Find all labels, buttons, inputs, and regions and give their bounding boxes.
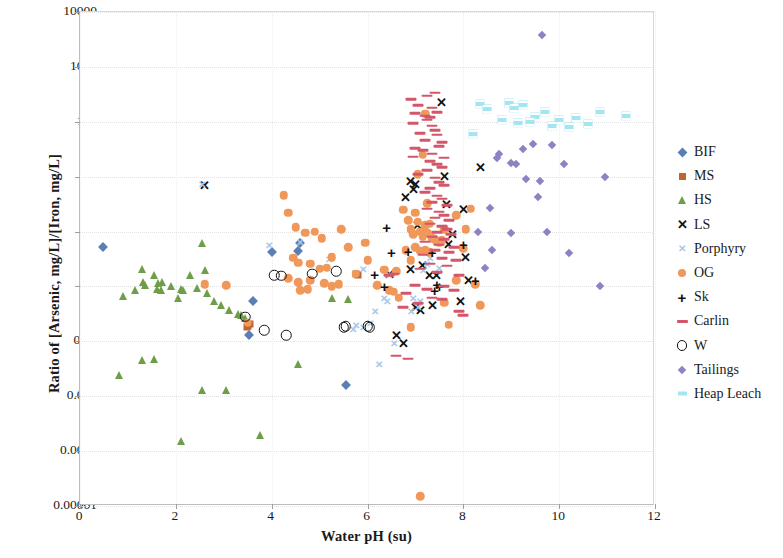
data-point-carlin xyxy=(424,262,435,265)
data-point-hs xyxy=(138,356,146,364)
legend-label: HS xyxy=(692,192,712,208)
data-point-heap-leach xyxy=(531,113,540,122)
data-point-ls: ✕ xyxy=(405,262,416,275)
data-point-carlin xyxy=(420,241,431,244)
data-point-heap-leach xyxy=(564,123,573,132)
data-point-ls: ✕ xyxy=(431,269,442,282)
data-point-hs xyxy=(210,297,218,305)
legend-item-porphyry[interactable]: ✕Porphyry xyxy=(672,237,783,261)
y-tick-mark xyxy=(75,122,80,123)
data-point-w xyxy=(338,322,349,333)
legend-item-carlin[interactable]: Carlin xyxy=(672,309,783,333)
data-point-og xyxy=(315,265,324,274)
data-point-tailings xyxy=(507,229,515,237)
data-point-ls: ✕ xyxy=(384,267,395,280)
data-point-ls: ✕ xyxy=(408,182,419,195)
data-point-carlin xyxy=(439,214,450,217)
data-point-og xyxy=(426,219,435,228)
legend-item-og[interactable]: OG xyxy=(672,261,783,285)
data-point-og xyxy=(306,276,315,285)
data-point-tailings xyxy=(495,150,503,158)
data-point-tailings xyxy=(529,139,537,147)
data-point-og xyxy=(423,229,432,238)
data-point-carlin xyxy=(439,184,450,187)
data-point-og xyxy=(416,492,425,501)
data-point-og xyxy=(399,205,408,214)
data-point-ls: ✕ xyxy=(398,336,409,349)
data-point-carlin xyxy=(417,149,428,152)
data-point-ls: ✕ xyxy=(400,191,411,204)
y-gridline xyxy=(80,506,653,507)
data-point-sk: + xyxy=(404,243,413,258)
data-point-carlin xyxy=(405,98,416,101)
y-gridline xyxy=(80,286,653,287)
data-point-carlin xyxy=(431,163,442,166)
legend-item-ms[interactable]: MS xyxy=(672,164,783,188)
data-point-carlin xyxy=(408,156,419,159)
y-gridline xyxy=(80,67,653,68)
data-point-carlin xyxy=(443,219,454,222)
data-point-og xyxy=(373,281,382,290)
x-tick-mark xyxy=(176,504,177,509)
data-point-og xyxy=(404,216,413,225)
data-point-og xyxy=(440,299,449,308)
data-point-og xyxy=(394,294,403,303)
data-point-carlin xyxy=(427,124,438,127)
data-point-heap-leach xyxy=(519,101,528,110)
data-point-carlin xyxy=(410,112,421,115)
data-point-carlin xyxy=(443,251,454,254)
legend-item-w[interactable]: W xyxy=(672,334,783,358)
legend-label: MS xyxy=(692,168,714,184)
data-point-carlin xyxy=(446,233,457,236)
x-tick-mark xyxy=(272,504,273,509)
data-point-ls: ✕ xyxy=(417,258,428,271)
data-point-porphyry: ✕ xyxy=(380,292,388,303)
data-point-carlin xyxy=(436,141,447,144)
data-point-carlin xyxy=(436,166,447,169)
data-point-ls: ✕ xyxy=(424,269,435,282)
data-point-hs xyxy=(222,386,230,394)
data-point-tailings xyxy=(519,145,527,153)
data-point-carlin xyxy=(429,129,440,132)
legend-label: BIF xyxy=(692,144,716,160)
data-point-hs xyxy=(158,278,166,286)
data-point-hs xyxy=(201,266,209,274)
legend-item-bif[interactable]: BIF xyxy=(672,140,783,164)
y-gridline xyxy=(80,177,653,178)
data-point-porphyry: ✕ xyxy=(349,323,357,334)
data-point-ls: ✕ xyxy=(415,303,426,316)
y-tick-mark xyxy=(75,177,80,178)
data-point-og xyxy=(284,209,293,218)
x-tick-label: 12 xyxy=(647,508,661,524)
y-tick-mark xyxy=(75,341,80,342)
y-tick-mark xyxy=(75,12,80,13)
data-point-carlin xyxy=(422,169,433,172)
legend-label: Heap Leach xyxy=(692,386,761,402)
legend-item-ls[interactable]: ✕LS xyxy=(672,213,783,237)
data-point-carlin xyxy=(427,297,438,300)
data-point-og xyxy=(418,151,427,160)
data-point-hs xyxy=(234,310,242,318)
data-point-carlin xyxy=(436,225,447,228)
legend-marker-icon xyxy=(672,320,692,323)
data-point-og xyxy=(306,259,315,268)
data-point-og xyxy=(428,234,437,243)
legend-marker-icon xyxy=(672,173,692,180)
data-point-og xyxy=(416,246,425,255)
data-point-og xyxy=(406,256,415,265)
legend-item-heap-leach[interactable]: Heap Leach xyxy=(672,382,783,406)
data-point-heap-leach xyxy=(595,108,604,117)
data-point-og xyxy=(289,254,298,263)
legend-label: LS xyxy=(692,217,710,233)
data-point-w xyxy=(365,322,376,333)
data-point-w xyxy=(307,269,318,280)
data-point-sk: + xyxy=(387,245,396,260)
data-point-ls: ✕ xyxy=(441,197,452,210)
data-point-carlin xyxy=(398,306,409,309)
data-point-hs xyxy=(193,284,201,292)
legend-item-sk[interactable]: +Sk xyxy=(672,285,783,309)
data-point-og xyxy=(411,243,420,252)
legend-item-hs[interactable]: HS xyxy=(672,188,783,212)
data-point-carlin xyxy=(434,181,445,184)
legend-item-tailings[interactable]: Tailings xyxy=(672,358,783,382)
